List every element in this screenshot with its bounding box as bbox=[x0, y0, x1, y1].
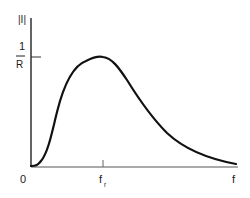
x-tick-label-subscript: r bbox=[104, 181, 107, 188]
x-tick-label-f: f bbox=[99, 173, 103, 185]
resonance-curve bbox=[31, 57, 236, 166]
resonance-chart: |I| 1 R 0 f r f bbox=[0, 0, 250, 198]
y-tick-numerator: 1 bbox=[19, 40, 25, 52]
y-axis-label: |I| bbox=[18, 14, 26, 25]
origin-label: 0 bbox=[20, 173, 26, 185]
chart-canvas: |I| 1 R 0 f r f bbox=[0, 0, 250, 198]
x-axis-label: f bbox=[232, 173, 236, 185]
y-tick-label-1-over-r: 1 R bbox=[16, 40, 25, 70]
y-tick-denominator: R bbox=[16, 59, 23, 70]
x-tick-label-fr: f r bbox=[99, 173, 107, 188]
